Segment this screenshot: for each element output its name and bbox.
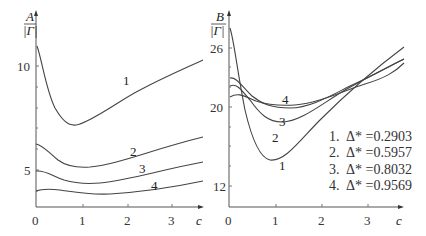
right-x-arrow-icon bbox=[398, 205, 404, 209]
legend-num-4: 4. bbox=[329, 178, 340, 193]
right-y-arrow-icon bbox=[227, 10, 231, 16]
legend-num-1: 1. bbox=[329, 129, 340, 144]
right-x-tick-0: 0 bbox=[225, 213, 232, 228]
figure: A |Γ| 10 5 0 1 2 3 c 1 2 3 4 B bbox=[0, 0, 426, 236]
left-y-tick-10: 10 bbox=[17, 59, 30, 74]
right-curve-label-2: 2 bbox=[272, 130, 279, 145]
left-curve-label-3: 3 bbox=[139, 161, 146, 176]
left-curve-label-2: 2 bbox=[130, 144, 137, 159]
right-y-tick-12: 12 bbox=[213, 179, 226, 194]
right-y-label-bottom: |Γ| bbox=[210, 23, 225, 38]
left-y-label-bottom: |Γ| bbox=[23, 23, 38, 38]
left-x-tick-0: 0 bbox=[32, 213, 39, 228]
left-curve-4 bbox=[36, 181, 203, 194]
left-y-tick-5: 5 bbox=[24, 163, 31, 178]
right-curve-label-1: 1 bbox=[279, 158, 286, 173]
right-chart: B |Γ| 26 20 12 0 1 2 3 c 1 2 3 4 1. Δ* =… bbox=[210, 9, 412, 228]
left-x-tick-3: 3 bbox=[168, 213, 175, 228]
left-curve-label-1: 1 bbox=[123, 73, 130, 88]
left-curve-3 bbox=[36, 162, 203, 183]
left-x-arrow-icon bbox=[198, 205, 204, 209]
right-x-tick-1: 1 bbox=[272, 213, 279, 228]
right-y-label-top: B bbox=[216, 9, 224, 24]
legend-num-3: 3. bbox=[329, 162, 340, 177]
left-curve-label-4: 4 bbox=[151, 178, 158, 193]
right-curve-2 bbox=[230, 59, 404, 122]
legend-item-3: Δ* =0.8032 bbox=[346, 162, 412, 177]
legend-item-4: Δ* =0.9569 bbox=[346, 178, 412, 193]
left-chart: A |Γ| 10 5 0 1 2 3 c 1 2 3 4 bbox=[17, 9, 204, 228]
right-y-tick-26: 26 bbox=[210, 41, 224, 56]
left-x-label: c bbox=[196, 213, 202, 228]
left-x-tick-2: 2 bbox=[124, 213, 131, 228]
right-x-tick-2: 2 bbox=[318, 213, 325, 228]
right-curve-label-3: 3 bbox=[279, 114, 286, 129]
legend-num-2: 2. bbox=[329, 145, 340, 160]
left-curve-1 bbox=[37, 46, 203, 125]
left-curve-2 bbox=[36, 137, 203, 167]
left-y-label-top: A bbox=[25, 9, 34, 24]
left-y-arrow-icon bbox=[34, 10, 38, 16]
right-x-tick-3: 3 bbox=[364, 213, 371, 228]
right-x-label: c bbox=[396, 213, 402, 228]
right-curve-label-4: 4 bbox=[282, 92, 289, 107]
legend-item-2: Δ* =0.5957 bbox=[346, 145, 412, 160]
left-x-tick-1: 1 bbox=[79, 213, 86, 228]
right-y-tick-20: 20 bbox=[210, 100, 223, 115]
legend: 1. Δ* =0.2903 2. Δ* =0.5957 3. Δ* =0.803… bbox=[329, 129, 412, 193]
legend-item-1: Δ* =0.2903 bbox=[346, 129, 412, 144]
